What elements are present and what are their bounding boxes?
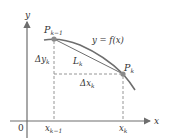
- delta-y-label: Δyk: [34, 54, 50, 65]
- tick-xk-1-label: xk−1: [45, 123, 62, 134]
- origin-label: 0: [18, 123, 24, 133]
- tick-xk-label: xk: [119, 123, 128, 134]
- curve-label: y = f(x): [91, 35, 124, 45]
- delta-x-label: Δxk: [79, 78, 95, 89]
- arc-length-diagram: y x 0 Pk−1 Pk y = f(x) Lk Δyk Δxk xk−1 x…: [0, 0, 173, 139]
- point-pk-1: [51, 36, 56, 41]
- chord-label: Lk: [72, 56, 83, 67]
- point-pk-1-label: Pk−1: [43, 24, 63, 36]
- x-axis-label: x: [154, 116, 159, 126]
- y-axis-label: y: [24, 10, 31, 20]
- point-pk-label: Pk: [123, 62, 134, 74]
